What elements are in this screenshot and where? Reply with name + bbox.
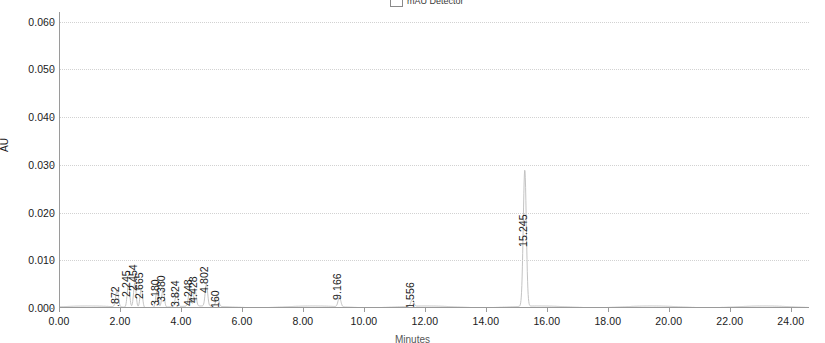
legend-entry-label: mAU Detector — [407, 0, 464, 6]
x-tick-mark — [608, 308, 609, 312]
x-tick-mark — [303, 308, 304, 312]
y-gridline — [60, 22, 809, 23]
x-tick-mark — [181, 308, 182, 312]
peak-label: 3.380 — [155, 275, 167, 302]
x-tick-label: 16.00 — [533, 315, 560, 327]
x-tick-label: 2.00 — [110, 315, 131, 327]
x-tick-mark — [425, 308, 426, 312]
x-tick-mark — [730, 308, 731, 312]
y-tick-label: 0.000 — [3, 302, 55, 314]
y-tick-label: 0.020 — [3, 207, 55, 219]
x-tick-mark — [791, 308, 792, 312]
y-tick-mark — [51, 117, 55, 118]
y-tick-label: 0.060 — [3, 16, 55, 28]
legend-swatch-icon — [390, 0, 403, 7]
x-tick-mark — [120, 308, 121, 312]
y-tick-mark — [51, 22, 55, 23]
y-tick-mark — [51, 165, 55, 166]
y-gridline — [60, 260, 809, 261]
x-tick-label: 24.00 — [777, 315, 804, 327]
x-tick-mark — [486, 308, 487, 312]
y-tick-mark — [51, 213, 55, 214]
x-tick-label: 6.00 — [232, 315, 253, 327]
chromatogram-view: mAU Detector AU 0.0000.0100.0200.0300.04… — [0, 0, 825, 343]
x-tick-label: 22.00 — [716, 315, 743, 327]
peak-label: 15.245 — [517, 215, 529, 248]
peak-label: 5.160 — [209, 290, 221, 307]
y-gridline — [60, 213, 809, 214]
x-axis-ticks: 0.002.004.006.008.0010.0012.0014.0016.00… — [59, 308, 809, 328]
x-tick-mark — [59, 308, 60, 312]
peak-label: 11.556 — [404, 282, 416, 307]
x-tick-mark — [364, 308, 365, 312]
x-tick-mark — [242, 308, 243, 312]
plot-area: 1.8722.2452.4542.6653.1803.3803.8244.248… — [59, 12, 809, 308]
y-tick-label: 0.050 — [3, 63, 55, 75]
y-tick-mark — [51, 69, 55, 70]
y-gridline — [60, 117, 809, 118]
x-tick-label: 4.00 — [171, 315, 192, 327]
x-tick-label: 8.00 — [292, 315, 313, 327]
peak-label: 2.665 — [133, 272, 145, 299]
peak-label: 9.166 — [331, 273, 343, 300]
peak-label: 3.824 — [169, 280, 181, 307]
x-tick-label: 12.00 — [411, 315, 438, 327]
x-tick-label: 10.00 — [350, 315, 377, 327]
y-gridline — [60, 69, 809, 70]
x-tick-mark — [669, 308, 670, 312]
y-tick-label: 0.030 — [3, 159, 55, 171]
y-tick-label: 0.040 — [3, 111, 55, 123]
y-tick-mark — [51, 308, 55, 309]
y-tick-label: 0.010 — [3, 254, 55, 266]
x-tick-label: 18.00 — [594, 315, 621, 327]
x-tick-mark — [547, 308, 548, 312]
x-tick-label: 20.00 — [655, 315, 682, 327]
y-gridline — [60, 165, 809, 166]
y-axis-ticks: 0.0000.0100.0200.0300.0400.0500.060 — [0, 12, 55, 308]
x-axis-title: Minutes — [0, 330, 825, 343]
x-tick-label: 0.00 — [49, 315, 70, 327]
y-tick-mark — [51, 260, 55, 261]
plot-canvas: 1.8722.2452.4542.6653.1803.3803.8244.248… — [60, 12, 809, 307]
chromatogram-trace — [60, 12, 809, 307]
chart-legend: mAU Detector — [390, 0, 464, 8]
x-tick-label: 14.00 — [472, 315, 499, 327]
